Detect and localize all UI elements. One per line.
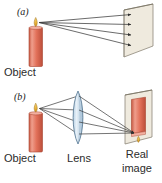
- panel-a-rays: [39, 15, 131, 46]
- real-image-candle-body: [132, 97, 146, 133]
- converging-lens: [73, 91, 83, 144]
- screen-face-a: [124, 4, 153, 57]
- real-image-caption-line1: Real: [115, 148, 159, 160]
- panel-a-screen: [124, 4, 153, 57]
- ray-b-in-4: [40, 109, 79, 135]
- ray-a-4: [39, 23, 131, 46]
- panel-a-group: [29, 4, 153, 67]
- panel-a-label: (a): [17, 6, 29, 17]
- panel-a-candle: [29, 18, 43, 67]
- panel-a-object-caption: Object: [4, 66, 66, 78]
- lens-body: [73, 91, 83, 144]
- panel-b-label: (b): [14, 91, 26, 102]
- panel-b-object-caption: Object: [4, 152, 66, 164]
- ray-b-in-1: [40, 96, 79, 109]
- lens-caption: Lens: [58, 152, 100, 164]
- ray-b-in-3: [40, 109, 79, 123]
- candle-body-b: [29, 113, 43, 152]
- optics-figure: (a) Object (b) Object Lens Real image: [0, 0, 162, 183]
- real-image-caption-line2: image: [115, 162, 159, 174]
- panel-b-group: [29, 90, 152, 152]
- candle-flame-a: [34, 18, 37, 27]
- ray-b-in-2: [40, 109, 79, 111]
- candle-body-a: [29, 28, 43, 67]
- panel-b-candle: [29, 103, 43, 152]
- ray-a-1: [39, 15, 131, 23]
- panel-b-rays-incident: [40, 96, 79, 134]
- candle-flame-b: [34, 103, 37, 112]
